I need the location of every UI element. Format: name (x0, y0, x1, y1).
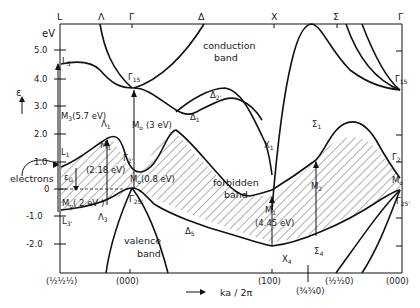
svg-text:Δ1: Δ1 (190, 112, 200, 123)
svg-text:Δ2': Δ2' (210, 90, 222, 101)
svg-text:X1: X1 (264, 140, 274, 151)
svg-text:band: band (214, 52, 238, 63)
svg-text:Δ: Δ (198, 11, 205, 22)
svg-text:ka / 2π: ka / 2π (220, 287, 252, 298)
svg-text:X: X (271, 11, 278, 22)
valence-band-label: valence (124, 235, 161, 246)
svg-text:Σ4: Σ4 (314, 246, 323, 257)
svg-text:4.0: 4.0 (34, 74, 48, 84)
svg-text:5.0: 5.0 (34, 45, 48, 55)
svg-text:Σ1: Σ1 (312, 119, 321, 130)
svg-text:Γ25': Γ25' (396, 196, 410, 207)
svg-text:Γ: Γ (129, 11, 135, 22)
svg-text:Γ15: Γ15 (395, 74, 408, 85)
band-structure-diagram: eV 5.0 4.0 3.0 2.0 1.0 0 -1.0 -2.0 ε L Λ… (0, 0, 420, 308)
svg-text:-1.0: -1.0 (26, 211, 43, 221)
svg-text:0: 0 (44, 184, 49, 194)
x-axis-label: ka / 2π (186, 287, 252, 298)
forbidden-band-label: forbidden (213, 177, 259, 188)
svg-text:Mo(3 eV): Mo(3 eV) (132, 120, 172, 131)
svg-text:band: band (137, 248, 161, 259)
svg-text:Λ3: Λ3 (98, 212, 108, 223)
svg-text:L1: L1 (61, 147, 70, 158)
svg-text:Λ: Λ (98, 11, 105, 22)
svg-text:Δ5: Δ5 (185, 226, 195, 237)
svg-text:eV: eV (42, 28, 55, 39)
svg-text:Γ25': Γ25' (129, 194, 143, 205)
svg-text:1.0: 1.0 (34, 157, 48, 167)
top-symmetry-labels: L Λ Γ Δ X Σ Γ (57, 11, 404, 22)
svg-text:L: L (57, 11, 63, 22)
electrons-label: electrons (10, 173, 54, 184)
svg-text:3.0: 3.0 (34, 101, 48, 111)
svg-text:band: band (224, 189, 248, 200)
svg-text:M3(5.7 eV): M3(5.7 eV) (61, 111, 106, 122)
svg-text:L3': L3' (62, 216, 73, 227)
svg-text:(100): (100) (258, 276, 281, 286)
svg-text:Γ2': Γ2' (123, 153, 134, 164)
svg-text:(½½0): (½½0) (325, 276, 354, 286)
svg-text:(½½½): (½½½) (46, 276, 77, 286)
y-axis-labels: eV 5.0 4.0 3.0 2.0 1.0 0 -1.0 -2.0 ε (16, 28, 55, 249)
svg-text:Γ15: Γ15 (128, 72, 141, 83)
svg-text:(4.45 eV): (4.45 eV) (255, 218, 294, 228)
conduction-band-label: conduction (203, 40, 256, 51)
svg-text:Mo( 2 eV ): Mo( 2 eV ) (62, 198, 104, 209)
svg-text:-2.0: -2.0 (26, 239, 43, 249)
svg-text:X4: X4 (282, 254, 292, 265)
svg-text:L3: L3 (62, 56, 71, 67)
svg-text:Σ: Σ (333, 11, 339, 22)
svg-text:Mo(0.8 eV): Mo(0.8 eV) (130, 174, 175, 185)
svg-text:ε: ε (16, 87, 21, 98)
svg-text:(2.18 eV): (2.18 eV) (86, 165, 125, 175)
svg-text:Γ: Γ (398, 11, 404, 22)
svg-text:2.0: 2.0 (34, 129, 48, 139)
svg-text:Γ2: Γ2 (392, 152, 401, 163)
svg-text:(000): (000) (386, 276, 409, 286)
svg-text:(000): (000) (116, 276, 139, 286)
svg-text:(¾¾0): (¾¾0) (296, 286, 325, 296)
